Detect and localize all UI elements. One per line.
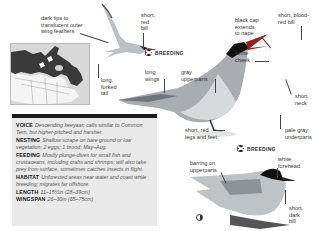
badge-adult-breeding: BREEDING <box>237 145 276 152</box>
leader-line <box>255 61 269 62</box>
label-flight-wingtips: dark tips to translucent outer wing feat… <box>41 15 83 35</box>
info-wingspan: WINGSPAN26–30in (65–75cm) <box>16 196 153 203</box>
label-flight-bill: short, red bill <box>141 12 155 32</box>
leader-line <box>285 190 286 204</box>
leader-line <box>213 130 225 131</box>
breeding-season-icon <box>237 145 244 152</box>
breeding-season-icon <box>145 49 152 56</box>
label-white-forehead: white forehead <box>278 156 300 169</box>
label-barring: barring on upperparts <box>190 160 217 173</box>
leader-line <box>143 33 144 49</box>
badge-flight-breeding: BREEDING <box>145 49 184 56</box>
label-dark-bill: short, dark bill <box>289 205 303 225</box>
info-feeding: FEEDINGMostly plunge-dives for small fis… <box>16 152 153 174</box>
info-length: LENGTH11–15½in (28–39cm) <box>16 189 153 196</box>
label-blood-red-bill: short, blood- red bill <box>278 12 309 25</box>
label-white-cheek: white cheek <box>235 50 250 63</box>
range-map <box>10 43 90 105</box>
leader-line <box>215 79 216 93</box>
label-legs-feet: short, red legs and feet <box>185 127 217 140</box>
label-short-neck: short neck <box>295 93 307 106</box>
label-black-cap: black cap extends to nape <box>235 17 259 37</box>
range-map-graphic <box>11 44 90 105</box>
label-flight-tail: long, forked tail <box>101 77 117 97</box>
info-habitat: HABITATUnforested areas near water and c… <box>16 174 153 189</box>
leader-line <box>98 64 99 78</box>
leader-line <box>164 79 165 93</box>
leader-line <box>285 79 291 94</box>
leader-line <box>277 168 278 178</box>
juvenile-icon <box>196 214 203 221</box>
info-voice: VOICEDescending keeyaar; calls similar t… <box>16 122 153 137</box>
species-info-box: VOICEDescending keeyaar; calls similar t… <box>12 114 157 226</box>
label-pale-underparts: pale gray underparts <box>285 127 312 140</box>
info-nesting: NESTINGShallow scrape on bare ground or … <box>16 137 153 152</box>
leader-line <box>280 115 281 129</box>
label-long-wings: long wings <box>145 69 159 82</box>
leader-line <box>301 26 302 40</box>
label-gray-upperparts: gray upperparts <box>181 69 208 82</box>
